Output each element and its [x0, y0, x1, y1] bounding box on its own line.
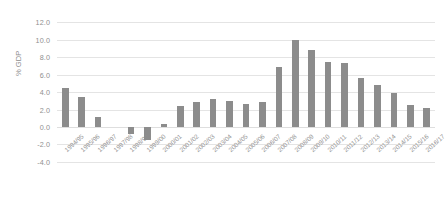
bar: [308, 50, 315, 127]
y-axis-tick-label: 0.0: [6, 123, 50, 132]
bar: [193, 102, 200, 127]
bar: [341, 63, 348, 127]
bar: [210, 99, 217, 127]
y-axis-tick-label: 6.0: [6, 71, 50, 80]
y-axis-tick-label: 4.0: [6, 88, 50, 97]
bar: [391, 93, 398, 127]
chart-container: % GDP 12.010.08.06.04.02.00.0-2.0-4.0 19…: [0, 0, 447, 202]
y-axis-tick-label: -4.0: [6, 158, 50, 167]
bar: [407, 105, 414, 127]
y-axis-tick-label: 10.0: [6, 36, 50, 45]
bar: [374, 85, 381, 127]
bar: [423, 108, 430, 127]
bar: [292, 40, 299, 127]
y-axis-tick-label: -2.0: [6, 140, 50, 149]
bar: [226, 101, 233, 127]
bar: [259, 102, 266, 127]
bar: [325, 62, 332, 127]
bar: [62, 88, 69, 127]
y-axis-tick-label: 2.0: [6, 106, 50, 115]
bar: [276, 67, 283, 127]
y-axis-tick-label: 8.0: [6, 53, 50, 62]
bar: [161, 124, 168, 127]
bar: [243, 104, 250, 127]
bar: [177, 106, 184, 127]
bar: [78, 97, 85, 127]
y-axis-tick-label: 12.0: [6, 18, 50, 27]
bar: [95, 117, 102, 127]
bar: [358, 78, 365, 127]
